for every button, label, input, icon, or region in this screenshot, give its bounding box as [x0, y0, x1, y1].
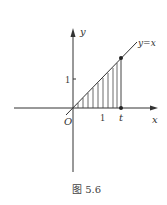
figure-caption: 图 5.6 [72, 184, 101, 195]
x-axis-label: x [152, 114, 158, 125]
x-axis [14, 106, 158, 111]
figure-diagram: y x O 1 1 t y=x 图 5.6 [0, 0, 167, 205]
x-tick-label-1: 1 [100, 112, 105, 123]
origin-label: O [64, 116, 72, 127]
y-axis-label: y [79, 26, 86, 37]
line-label: y=x [137, 38, 156, 48]
point-t-0 [119, 106, 123, 110]
y-axis [71, 28, 76, 172]
y-axis-arrow-icon [71, 28, 76, 37]
x-axis-arrow-icon [150, 106, 158, 111]
point-t-t [119, 56, 123, 60]
line-y-equals-x [66, 42, 137, 115]
y-tick-label-1: 1 [65, 74, 70, 85]
t-label: t [119, 112, 124, 123]
